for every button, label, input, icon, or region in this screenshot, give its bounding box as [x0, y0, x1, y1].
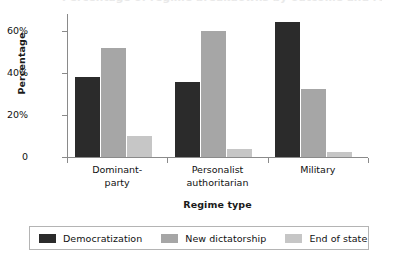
bar-democratization-dominant-party	[75, 77, 100, 157]
y-axis-line	[67, 14, 68, 158]
y-axis-tick	[62, 73, 67, 74]
bar-new-dictatorship-dominant-party	[101, 48, 126, 157]
x-axis-tick	[368, 158, 369, 163]
x-axis-category-label-line: Dominant-	[61, 164, 173, 177]
x-axis-tick	[268, 158, 269, 163]
legend-label: New dictatorship	[185, 233, 266, 244]
bar-democratization-military	[275, 22, 300, 157]
y-axis-tick	[62, 31, 67, 32]
bar-democratization-personalist-authoritarian	[175, 82, 200, 157]
y-axis-tick-label: 40%	[0, 67, 28, 78]
legend-label: End of state	[309, 233, 367, 244]
y-axis-tick-label: 20%	[0, 109, 28, 120]
y-axis-tick-label: 60%	[0, 25, 28, 36]
legend-entry-democratization: Democratization	[39, 233, 142, 244]
x-axis-category-label: Military	[262, 164, 374, 177]
legend-swatch	[161, 234, 178, 243]
bar-new-dictatorship-personalist-authoritarian	[201, 31, 226, 157]
legend-entry-new-dictatorship: New dictatorship	[161, 233, 266, 244]
bar-new-dictatorship-military	[301, 89, 326, 157]
x-axis-category-label-line: Military	[262, 164, 374, 177]
y-axis-tick	[62, 115, 67, 116]
x-axis-line	[67, 157, 368, 158]
bar-end-of-state-personalist-authoritarian	[227, 149, 252, 157]
x-axis-category-label: Dominant-party	[61, 164, 173, 189]
x-axis-category-label-line: authoritarian	[161, 177, 273, 190]
bar-end-of-state-dominant-party	[127, 136, 152, 157]
legend-entry-end-of-state: End of state	[285, 233, 367, 244]
x-axis-category-label: Personalistauthoritarian	[161, 164, 273, 189]
x-axis-category-label-line: party	[61, 177, 173, 190]
plot-area: 020%40%60%	[67, 14, 368, 158]
bar-chart-figure: Percentage of regime breakdowns by outco…	[0, 0, 396, 258]
legend-swatch	[285, 234, 302, 243]
x-axis-title: Regime type	[67, 199, 368, 210]
legend-swatch	[39, 234, 56, 243]
bar-end-of-state-military	[327, 152, 352, 157]
y-axis-tick-label: 0	[0, 151, 28, 162]
chart-legend: DemocratizationNew dictatorshipEnd of st…	[29, 226, 369, 250]
legend-label: Democratization	[63, 233, 142, 244]
chart-title: Percentage of regime breakdowns by outco…	[62, 0, 382, 3]
x-axis-category-label-line: Personalist	[161, 164, 273, 177]
x-axis-tick	[67, 158, 68, 163]
x-axis-tick	[167, 158, 168, 163]
